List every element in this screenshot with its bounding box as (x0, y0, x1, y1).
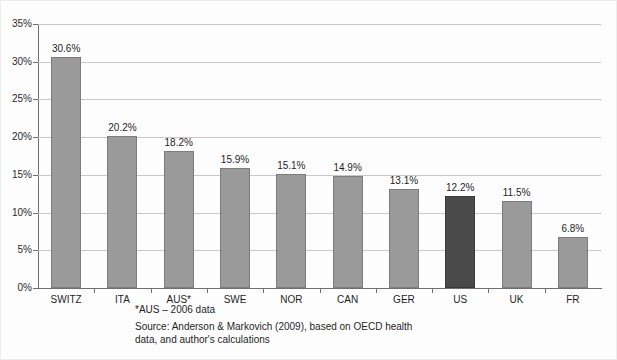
bar-fr[interactable] (558, 237, 588, 288)
bar-slot: 12.2% (432, 24, 488, 288)
y-axis-tick-label: 15% (0, 170, 32, 180)
bar-us[interactable] (445, 196, 475, 288)
bar-value-label: 13.1% (390, 175, 418, 186)
bar-slot: 13.1% (376, 24, 432, 288)
bar-switz[interactable] (51, 57, 81, 288)
y-axis-tick-label: 5% (0, 245, 32, 255)
bar-ger[interactable] (389, 189, 419, 288)
bar-slot: 14.9% (320, 24, 376, 288)
bar-slot: 11.5% (488, 24, 544, 288)
bar-value-label: 14.9% (333, 162, 361, 173)
bar-value-label: 30.6% (52, 43, 80, 54)
footnotes: *AUS – 2006 data Source: Anderson & Mark… (135, 303, 535, 346)
bar-value-label: 15.1% (277, 160, 305, 171)
bar-value-label: 12.2% (446, 182, 474, 193)
bar-aus[interactable] (164, 151, 194, 288)
x-axis-tick-mark (263, 289, 264, 293)
y-axis-tick-label: 0% (0, 283, 32, 293)
y-axis-tick-label: 35% (0, 19, 32, 29)
x-axis-tick-mark (151, 289, 152, 293)
x-axis-tick-mark (320, 289, 321, 293)
bar-nor[interactable] (276, 174, 306, 288)
footnote-source: Source: Anderson & Markovich (2009), bas… (135, 320, 435, 346)
x-axis-tick-mark (545, 289, 546, 293)
x-axis-tick-label: FR (545, 294, 601, 305)
bar-value-label: 18.2% (165, 137, 193, 148)
x-axis-tick-mark (432, 289, 433, 293)
bar-value-label: 20.2% (108, 122, 136, 133)
bar-can[interactable] (333, 176, 363, 288)
bar-value-label: 11.5% (503, 187, 531, 198)
bar-value-label: 6.8% (561, 223, 584, 234)
y-axis-tick-label: 30% (0, 57, 32, 67)
x-axis-tick-mark (94, 289, 95, 293)
x-axis-tick-label: SWITZ (38, 294, 94, 305)
bars-group: 30.6%20.2%18.2%15.9%15.1%14.9%13.1%12.2%… (38, 24, 601, 288)
bar-value-label: 15.9% (221, 154, 249, 165)
bar-slot: 18.2% (151, 24, 207, 288)
bar-swe[interactable] (220, 168, 250, 288)
bar-chart: 35%30%25%20%15%10%5%0% 30.6%20.2%18.2%15… (0, 0, 617, 360)
y-axis-tick-label: 10% (0, 208, 32, 218)
bar-slot: 15.9% (207, 24, 263, 288)
x-axis-tick-mark (376, 289, 377, 293)
bar-slot: 20.2% (94, 24, 150, 288)
x-axis-tick-mark (488, 289, 489, 293)
y-axis-tick-label: 20% (0, 132, 32, 142)
bar-uk[interactable] (502, 201, 532, 288)
y-axis-tick-label: 25% (0, 94, 32, 104)
bar-slot: 30.6% (38, 24, 94, 288)
x-axis-tick-mark (207, 289, 208, 293)
bar-slot: 6.8% (545, 24, 601, 288)
bar-ita[interactable] (107, 136, 137, 288)
bar-slot: 15.1% (263, 24, 319, 288)
footnote-note: *AUS – 2006 data (135, 303, 535, 316)
